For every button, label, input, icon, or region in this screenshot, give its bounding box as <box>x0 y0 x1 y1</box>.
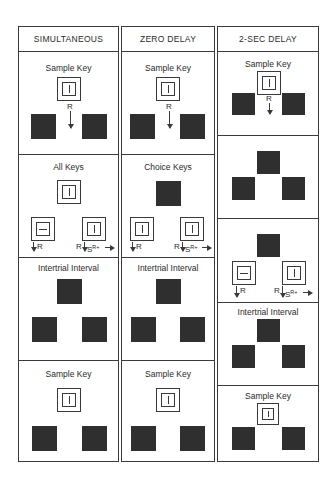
left-choice-key-icon <box>130 217 154 241</box>
down-arrow-icon <box>33 242 34 251</box>
sample-key-icon <box>156 77 180 101</box>
response-label: R <box>240 287 246 295</box>
panel-sample-key: Sample Key R <box>122 51 214 155</box>
dark-key-left <box>232 345 255 368</box>
panel-label: Sample Key <box>218 391 318 401</box>
panel-label: Sample Key <box>19 63 118 73</box>
sample-key-icon <box>257 403 279 425</box>
panel-choice-keys: Choice Keys R R SR+ <box>122 154 214 258</box>
down-arrow-icon <box>132 242 133 251</box>
panel-delay <box>218 135 318 219</box>
dark-key-right <box>82 114 107 139</box>
right-choice-key-icon <box>282 261 306 285</box>
dark-key-right <box>82 317 107 342</box>
dark-key-left <box>130 114 155 139</box>
panel-sample-key: Sample Key R <box>218 51 318 136</box>
dark-key-left <box>31 114 56 139</box>
left-choice-key-icon <box>232 261 256 285</box>
panel-sample-key: Sample Key R <box>19 51 118 155</box>
dark-key-right <box>282 345 305 368</box>
reinforcer-label: SR+ <box>87 243 100 254</box>
right-choice-key-icon <box>82 217 106 241</box>
panel-choice-keys: R R SR+ <box>218 218 318 303</box>
dark-key-left <box>131 426 156 451</box>
down-arrow-icon <box>236 286 237 297</box>
response-label: R <box>67 103 73 111</box>
sample-key-icon <box>57 77 81 101</box>
response-label: R <box>136 243 142 251</box>
dark-key-center <box>57 279 82 304</box>
column-header: ZERO DELAY <box>122 27 214 52</box>
right-choice-key-icon <box>180 217 204 241</box>
panel-label: Sample Key <box>122 63 214 73</box>
sample-key-icon <box>257 71 281 95</box>
dark-key-left <box>131 317 156 342</box>
panel-label: Intertrial Interval <box>19 263 118 273</box>
panel-all-keys: All Keys R R SR+ <box>19 154 118 258</box>
column-header: 2-SEC DELAY <box>218 27 318 52</box>
panel-sample-key: Sample Key <box>218 385 318 463</box>
dark-key-right <box>282 177 305 200</box>
down-arrow-icon <box>169 111 170 128</box>
right-arrow-icon <box>202 247 210 248</box>
column-2-sec-delay: 2-SEC DELAY Sample Key R R R SR+ I <box>217 26 319 462</box>
dark-key-center <box>257 234 280 257</box>
panel-label: Sample Key <box>19 369 118 379</box>
reinforcer-label: SR+ <box>285 288 298 299</box>
column-zero-delay: ZERO DELAY Sample Key R Choice Keys R R … <box>121 26 215 462</box>
dark-key-left <box>232 427 255 450</box>
dark-key-right <box>180 114 205 139</box>
dark-key-left <box>32 426 57 451</box>
panel-label: Intertrial Interval <box>122 263 214 273</box>
column-simultaneous: SIMULTANEOUS Sample Key R All Keys R R S… <box>18 26 119 462</box>
panel-label: Sample Key <box>218 59 318 69</box>
panel-intertrial-interval: Intertrial Interval <box>19 257 118 361</box>
right-arrow-icon <box>105 247 113 248</box>
down-arrow-icon <box>84 242 85 251</box>
procedure-diagram: SIMULTANEOUS Sample Key R All Keys R R S… <box>18 26 318 462</box>
dark-key-center <box>156 181 181 206</box>
panel-label: All Keys <box>19 162 118 172</box>
panel-label: Choice Keys <box>122 162 214 172</box>
panel-intertrial-interval: Intertrial Interval <box>122 257 214 361</box>
column-header: SIMULTANEOUS <box>19 27 118 52</box>
response-label: R <box>166 103 172 111</box>
dark-key-center <box>257 151 280 174</box>
dark-key-right <box>180 317 205 342</box>
dark-key-right <box>180 426 205 451</box>
sample-key-icon <box>57 388 81 412</box>
down-arrow-icon <box>182 242 183 251</box>
response-label: R <box>266 95 272 103</box>
right-arrow-icon <box>303 292 311 293</box>
panel-intertrial-interval: Intertrial Interval <box>218 302 318 386</box>
panel-label: Intertrial Interval <box>218 307 318 317</box>
panel-sample-key: Sample Key <box>122 360 214 463</box>
panel-sample-key: Sample Key <box>19 360 118 463</box>
down-arrow-icon <box>70 111 71 128</box>
sample-key-icon <box>156 388 180 412</box>
center-key-icon <box>57 180 81 204</box>
dark-key-left <box>232 93 255 115</box>
left-choice-key-icon <box>31 217 55 241</box>
down-arrow-icon <box>269 103 270 114</box>
dark-key-left <box>32 317 57 342</box>
dark-key-center <box>257 319 280 342</box>
down-arrow-icon <box>282 286 283 297</box>
reinforcer-label: SR+ <box>185 243 198 254</box>
dark-key-right <box>282 93 305 115</box>
dark-key-center <box>156 279 181 304</box>
dark-key-right <box>82 426 107 451</box>
panel-label: Sample Key <box>122 369 214 379</box>
response-label: R <box>37 243 43 251</box>
dark-key-right <box>282 427 305 450</box>
dark-key-left <box>232 177 255 200</box>
